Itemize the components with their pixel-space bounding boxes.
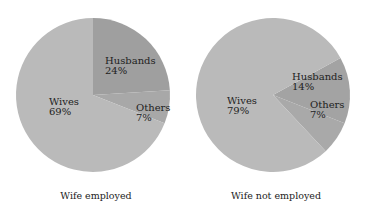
slice-value-husbands: 14% [292, 81, 314, 92]
slice-value-others: 7% [310, 109, 326, 120]
caption-wife-employed: Wife employed [60, 190, 131, 201]
pie-charts-canvas: Husbands24%Others7%Wives69% Husbands14%O… [0, 0, 365, 212]
caption-wife-not-employed: Wife not employed [231, 190, 321, 201]
slice-value-wives: 79% [227, 105, 249, 116]
pie-charts-figure: Husbands24%Others7%Wives69% Husbands14%O… [0, 0, 365, 212]
slice-value-others: 7% [136, 112, 152, 123]
slice-value-husbands: 24% [105, 65, 127, 76]
pie-chart-wife-not-employed: Husbands14%Others7%Wives79% [196, 18, 350, 172]
pie-chart-wife-employed: Husbands24%Others7%Wives69% [16, 18, 170, 172]
slice-value-wives: 69% [49, 106, 71, 117]
